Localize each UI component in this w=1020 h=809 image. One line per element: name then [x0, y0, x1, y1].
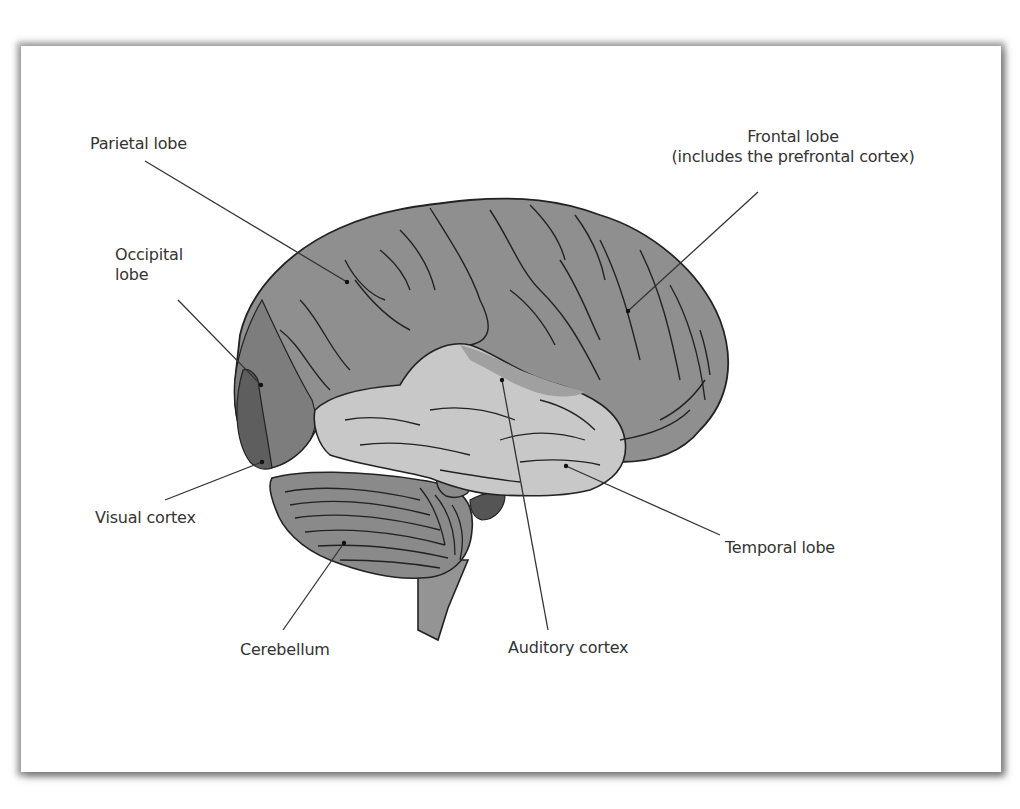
label-parietal-lobe: Parietal lobe [90, 134, 187, 154]
label-temporal-lobe: Temporal lobe [725, 538, 835, 558]
brain-diagram [0, 0, 1020, 809]
label-occipital-lobe-line2: lobe [115, 265, 183, 285]
label-frontal-lobe-line1: Frontal lobe [653, 127, 933, 147]
label-cerebellum: Cerebellum [240, 640, 330, 660]
label-frontal-lobe-line2: (includes the prefrontal cortex) [653, 147, 933, 167]
label-visual-cortex: Visual cortex [95, 508, 196, 528]
label-occipital-lobe: Occipital lobe [115, 245, 183, 285]
label-auditory-cortex: Auditory cortex [508, 638, 628, 658]
label-occipital-lobe-line1: Occipital [115, 245, 183, 265]
label-frontal-lobe: Frontal lobe (includes the prefrontal co… [653, 127, 933, 167]
